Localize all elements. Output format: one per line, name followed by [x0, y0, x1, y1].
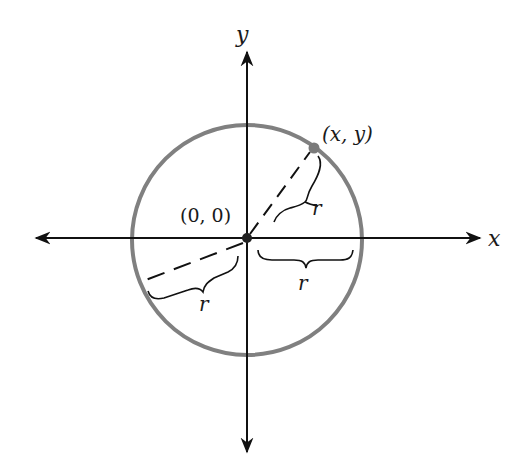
- x-axis-label: x: [488, 226, 501, 251]
- brace-lower-left: [148, 256, 238, 299]
- circle-diagram: y x (0, 0) (x, y) r r r: [0, 0, 523, 469]
- point-xy: [309, 143, 320, 154]
- radius-lower-left-dashed: [143, 243, 243, 281]
- radius-label-positive-x: r: [298, 271, 309, 295]
- radius-label-lower-left: r: [199, 292, 210, 316]
- brace-positive-x: [258, 250, 353, 268]
- origin-label: (0, 0): [180, 204, 231, 226]
- origin-point: [242, 233, 252, 243]
- radius-to-point-dashed: [250, 152, 310, 234]
- radius-label-point: r: [312, 196, 323, 220]
- point-label: (x, y): [322, 122, 373, 146]
- y-axis-label: y: [235, 22, 249, 47]
